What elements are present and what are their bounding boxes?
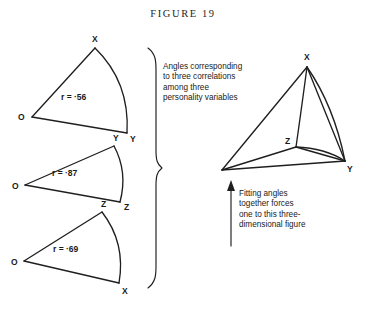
sector-yz-radius-top — [25, 146, 114, 185]
caption-right-line-2: together forces — [239, 199, 305, 209]
caption-left: Angles corresponding to three correlatio… — [163, 62, 242, 104]
sector-zx-arc — [102, 212, 121, 283]
solid-edge-O-Y — [222, 161, 345, 170]
caption-right-line-1: Fitting angles — [239, 189, 305, 199]
sector-yz-r-label: r = ·87 — [52, 168, 78, 178]
sector-zx-label-Z: Z — [101, 199, 106, 209]
sector-yz-arc — [114, 146, 123, 202]
sector-zx-radius-bottom — [24, 261, 119, 283]
sector-zx-label-O: O — [11, 257, 18, 267]
grouping-brace — [148, 48, 162, 288]
figure-root: FIGURE 19 O X Y r = ·56 O Y Z r = ·87 O … — [0, 0, 366, 311]
sector-xy-radius-bottom — [32, 117, 127, 133]
solid-label-X: X — [304, 52, 310, 62]
sector-xy-label-O: O — [18, 112, 25, 122]
solid-label-Z: Z — [285, 136, 290, 146]
sector-xy-radius-top — [32, 48, 95, 117]
sector-yz-label-Y: Y — [113, 133, 119, 143]
sector-xy — [32, 48, 127, 133]
caption-left-line-1: Angles corresponding — [163, 62, 242, 72]
caption-left-line-3: among three — [163, 83, 242, 93]
sector-zx-label-X: X — [122, 286, 128, 296]
up-arrow-icon — [227, 180, 235, 246]
sector-xy-arc — [95, 48, 127, 133]
caption-left-line-4: personality variables — [163, 93, 242, 103]
caption-right: Fitting angles together forces one to th… — [239, 189, 305, 231]
caption-left-line-2: to three correlations — [163, 72, 242, 82]
sector-yz-label-Z: Z — [124, 202, 129, 212]
sector-xy-r-label: r = ·56 — [61, 92, 87, 102]
caption-right-line-4: dimensional figure — [239, 220, 305, 230]
figure-drawing: O X Y r = ·56 O Y Z r = ·87 O Z X r = ·6… — [0, 0, 366, 311]
caption-right-line-3: one to this three- — [239, 210, 305, 220]
sector-yz-label-O: O — [12, 181, 19, 191]
solid-edge-X-Y — [307, 67, 345, 161]
sector-zx-r-label: r = ·69 — [53, 244, 79, 254]
sector-xy-label-X: X — [92, 34, 98, 44]
solid-edge-O-Z-Y — [222, 147, 345, 170]
solid-label-Y: Y — [347, 164, 353, 174]
sector-xy-label-Y: Y — [130, 134, 136, 144]
